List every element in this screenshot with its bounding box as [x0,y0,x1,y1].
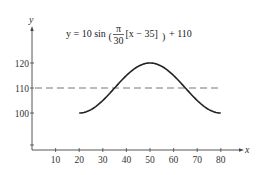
equation-rhs: + 110 [169,28,192,39]
x-axis-label: x [244,144,250,155]
equation-lhs: y = 10 sin [66,28,106,39]
y-tick-label: 110 [15,84,29,94]
x-tick-label: 20 [74,155,84,165]
equation-frac-num: π [116,23,121,34]
equation-bracket: [x − 35] [126,28,158,39]
equation-paren-close: ) [162,31,165,43]
x-tick-label: 40 [122,155,132,165]
y-tick-label: 100 [15,109,30,119]
equation-paren-open: ( [109,31,113,43]
equation-annotation: y = 10 sin ( π 30 [x − 35] ) + 110 [66,23,192,46]
y-axis-arrow-icon [30,26,33,31]
x-tick-label: 10 [51,155,61,165]
x-tick-label: 30 [98,155,108,165]
x-tick-labels: 10 20 30 40 50 60 70 80 [51,155,226,165]
x-tick-label: 60 [169,155,179,165]
y-tick-label: 120 [15,59,30,69]
x-tick-label: 50 [145,155,155,165]
sine-chart: y x 120 110 100 10 20 30 40 50 60 70 80 … [0,0,257,175]
x-axis-arrow-icon [239,148,244,151]
y-axis-label: y [28,14,34,25]
equation-frac-den: 30 [114,35,124,46]
x-tick-label: 80 [216,155,226,165]
x-tick-label: 70 [192,155,202,165]
